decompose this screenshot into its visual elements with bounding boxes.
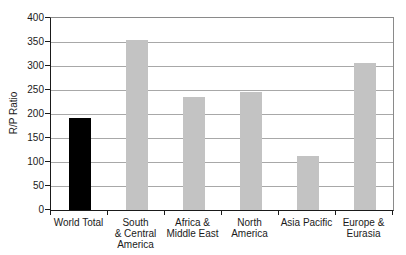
y-axis-tick [45,65,50,66]
y-tick-label: 250 [4,84,44,95]
x-tick-label-line: America [101,239,171,250]
x-tick-label-line: America [215,228,285,239]
y-axis-tick [45,89,50,90]
y-axis-tick [45,41,50,42]
y-axis-tick [45,137,50,138]
y-tick-label: 150 [4,132,44,143]
x-axis-tick [221,210,222,215]
gridline [51,186,393,187]
bar-world-total [69,118,91,210]
bar-south-central-america [126,40,148,210]
gridline [51,66,393,67]
x-axis-tick [164,210,165,215]
gridline [51,138,393,139]
y-tick-label: 400 [4,12,44,23]
y-axis-tick [45,17,50,18]
y-tick-label: 50 [4,180,44,191]
y-tick-label: 300 [4,60,44,71]
x-axis-tick [107,210,108,215]
y-tick-label: 0 [4,204,44,215]
x-axis-tick [278,210,279,215]
x-tick-label-line: Eurasia [329,228,399,239]
y-axis-tick [45,113,50,114]
x-tick-label-line: Europe & [329,217,399,228]
y-tick-label: 200 [4,108,44,119]
plot-area [50,17,394,211]
gridline [51,42,393,43]
y-tick-label: 350 [4,36,44,47]
gridline [51,90,393,91]
gridline [51,162,393,163]
y-axis-tick [45,185,50,186]
rp-ratio-bar-chart: R/P Ratio 050100150200250300350400 World… [0,0,406,255]
gridline [51,114,393,115]
x-tick-label: Europe &Eurasia [329,217,399,239]
y-axis-tick [45,161,50,162]
x-axis-tick [50,210,51,215]
bar-europe-eurasia [354,63,376,210]
x-axis-tick [392,210,393,215]
bar-north-america [240,92,262,210]
bar-africa-middle-east [183,97,205,210]
bar-asia-pacific [297,156,319,210]
y-tick-label: 100 [4,156,44,167]
x-axis-tick [335,210,336,215]
